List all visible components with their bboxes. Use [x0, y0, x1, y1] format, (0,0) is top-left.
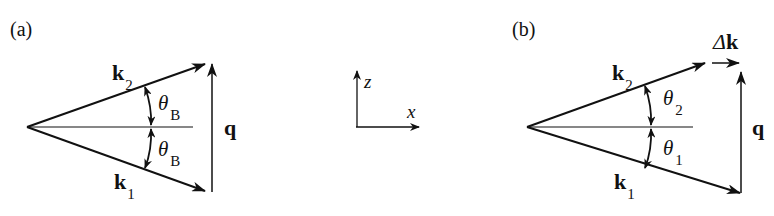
theta-1-label: θ1 — [663, 136, 683, 168]
coordinate-axes: z x — [356, 71, 419, 127]
delta-k-label: Δk — [712, 29, 739, 54]
panel-a: (a) k2 k1 q θB θB — [10, 18, 237, 202]
q-label: q — [224, 115, 237, 140]
k2-label: k2 — [112, 60, 133, 93]
theta-lower-arc-arrow — [145, 129, 151, 168]
k1-label: k1 — [614, 169, 635, 202]
z-axis-label: z — [363, 71, 372, 92]
x-axis-label: x — [406, 101, 416, 122]
theta-b-lower-label: θB — [158, 137, 180, 169]
theta-upper-arc-arrow — [145, 87, 151, 125]
q-label: q — [752, 115, 765, 140]
panel-a-label: (a) — [10, 18, 32, 41]
theta-2-arc-arrow — [645, 86, 651, 125]
theta-1-arc-arrow — [645, 129, 651, 168]
diagram-canvas: (a) k2 k1 q θB θB z x (b) k2 k1 q Δk θ2 — [0, 0, 774, 216]
theta-b-upper-label: θB — [158, 91, 180, 123]
k1-label: k1 — [114, 169, 135, 202]
k1-vector-arrow — [527, 127, 740, 193]
theta-2-label: θ2 — [663, 86, 683, 118]
panel-b: (b) k2 k1 q Δk θ2 θ1 — [512, 18, 765, 202]
figure: (a) k2 k1 q θB θB z x (b) k2 k1 q Δk θ2 — [0, 0, 774, 216]
panel-b-label: (b) — [512, 18, 535, 41]
k2-label: k2 — [612, 60, 633, 93]
